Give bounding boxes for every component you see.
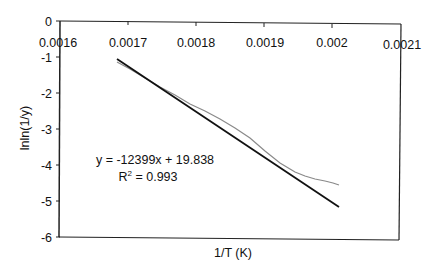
x-tick-label: 0.0016 xyxy=(39,36,77,50)
y-tick-label: -3 xyxy=(41,123,52,137)
x-tick-label: 0.0019 xyxy=(246,36,284,50)
x-axis-label: 1/T (K) xyxy=(214,246,252,260)
plot-right-border xyxy=(399,24,401,240)
y-tick-label: -4 xyxy=(41,159,52,173)
x-axis-top xyxy=(60,21,401,24)
plot-bottom-border xyxy=(59,237,399,240)
trendline xyxy=(117,59,339,207)
x-tick-label: 0.0017 xyxy=(109,36,147,50)
chart: 0.0016 0.0017 0.0018 0.0019 0.002 0.0021… xyxy=(0,0,433,277)
x-tick-label: 0.0021 xyxy=(383,38,421,52)
y-tick-label: -1 xyxy=(41,51,52,65)
x-tick-label: 0.0018 xyxy=(177,36,215,50)
y-tick-label: -2 xyxy=(41,87,52,101)
y-tick-label: -6 xyxy=(41,231,52,245)
x-tick-labels: 0.0016 0.0017 0.0018 0.0019 0.002 0.0021 xyxy=(39,36,421,52)
y-axis-label: lnln(1/y) xyxy=(18,106,32,150)
r-squared: R2 = 0.993 xyxy=(118,169,177,184)
trendline-equation: y = -12399x + 19.838 xyxy=(96,153,214,167)
y-tick-label: -5 xyxy=(41,195,52,209)
x-tick-label: 0.002 xyxy=(316,36,347,50)
plot-area xyxy=(59,21,401,240)
y-tick-label: 0 xyxy=(45,15,52,29)
